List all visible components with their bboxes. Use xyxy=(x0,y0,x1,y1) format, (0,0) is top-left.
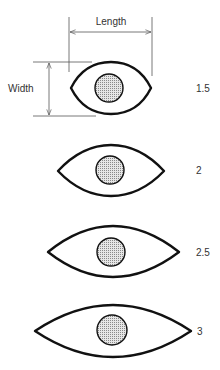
pupil xyxy=(97,315,127,345)
eye-ratio-3: 3 xyxy=(35,305,203,357)
ratio-label: 2 xyxy=(196,165,202,176)
length-label: Length xyxy=(96,16,127,27)
eye-ratio-diagram: Length Width 1.5 2 2.5 3 xyxy=(0,0,220,370)
eye-ratio-1-5: 1.5 xyxy=(71,62,210,114)
pupil xyxy=(96,156,124,184)
pupil xyxy=(95,74,123,102)
ratio-label: 1.5 xyxy=(196,83,210,94)
pupil xyxy=(97,238,125,266)
eye-ratio-2-5: 2.5 xyxy=(48,226,210,277)
ratio-label: 2.5 xyxy=(196,247,210,258)
width-label: Width xyxy=(8,83,34,94)
eye-ratio-2: 2 xyxy=(58,145,202,196)
ratio-label: 3 xyxy=(197,326,203,337)
